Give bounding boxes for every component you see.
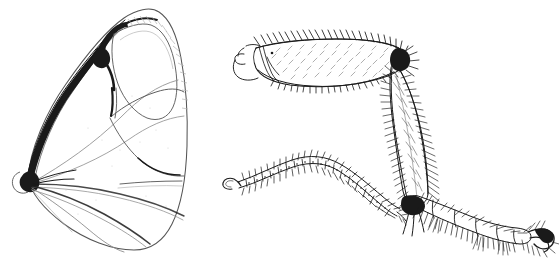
plate-canvas — [0, 0, 559, 273]
leg-femur-basal-pore — [271, 52, 274, 55]
illustration-plate — [0, 0, 559, 273]
